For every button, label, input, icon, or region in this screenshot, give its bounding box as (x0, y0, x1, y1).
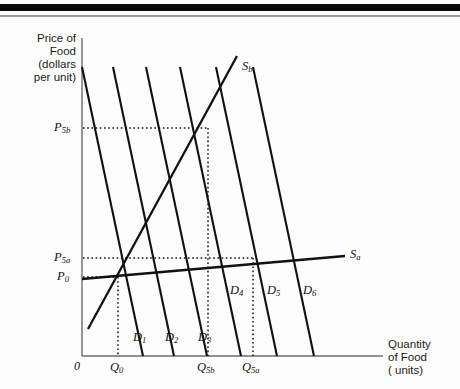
curve-D1 (82, 67, 143, 356)
price-tick-P5a-base: P (54, 250, 62, 264)
quantity-tick-Q5a: Q5a (242, 360, 260, 376)
y-axis-title-line-2: Food (6, 45, 76, 58)
price-tick-P0-sub: 0 (65, 274, 69, 284)
curve-label-D2-base: D (165, 330, 174, 344)
x-axis-title-line-3: ( units) (388, 364, 458, 377)
price-tick-P5b-sub: 5b (62, 125, 71, 135)
y-axis-title-line-3: (dollars (6, 58, 76, 71)
curve-label-D1: D1 (133, 330, 146, 346)
price-tick-P0: P0 (57, 269, 69, 285)
curve-label-D1-base: D (133, 330, 142, 344)
x-axis-title: Quantity of Food ( units) (388, 338, 458, 377)
curve-label-D6-sub: 6 (312, 288, 316, 298)
curve-label-Sa: Sa (350, 247, 361, 263)
curve-D3 (146, 67, 207, 356)
price-tick-P5a-sub: 5a (62, 255, 71, 265)
curve-label-D4: D4 (230, 283, 243, 299)
x-axis-title-line-2: of Food (388, 351, 458, 364)
curve-label-D2-sub: 2 (174, 335, 178, 345)
curve-Sb (88, 56, 237, 329)
curve-label-D3: D3 (198, 330, 211, 346)
y-axis-title-line-1: Price of (6, 32, 76, 45)
curve-label-D6: D6 (303, 283, 316, 299)
curve-label-Sb-sub: b (248, 64, 252, 74)
y-axis-title: Price of Food (dollars per unit) (6, 32, 76, 84)
curve-label-Sa-sub: a (356, 252, 360, 262)
price-tick-P5b: P5b (54, 120, 70, 136)
quantity-tick-Q0: Q0 (110, 360, 123, 376)
curve-label-D4-sub: 4 (239, 288, 243, 298)
curve-label-D5-sub: 5 (276, 288, 280, 298)
quantity-tick-Q5b: Q5b (197, 360, 215, 376)
price-tick-P5a: P5a (54, 250, 70, 266)
origin-label: 0 (74, 360, 80, 373)
axis-lines (82, 38, 383, 356)
curve-D6 (253, 67, 314, 356)
curve-label-D5: D5 (267, 283, 280, 299)
quantity-tick-Q5b-base: Q (197, 360, 206, 374)
curve-label-D3-base: D (198, 330, 207, 344)
curve-label-Sb: Sb (242, 59, 253, 75)
quantity-tick-Q5b-sub: 5b (206, 365, 215, 375)
quantity-tick-Q5a-sub: 5a (251, 365, 260, 375)
demand-curves (82, 67, 314, 356)
curve-label-D4-base: D (230, 283, 239, 297)
x-axis-title-line-1: Quantity (388, 338, 458, 351)
quantity-tick-Q5a-base: Q (242, 360, 251, 374)
curve-D5 (216, 67, 277, 356)
curve-label-D5-base: D (267, 283, 276, 297)
figure-canvas: Price of Food (dollars per unit) Quantit… (0, 0, 460, 389)
quantity-tick-Q0-sub: 0 (119, 365, 123, 375)
curve-label-D6-base: D (303, 283, 312, 297)
curve-D2 (113, 67, 174, 356)
price-tick-P0-base: P (57, 269, 65, 283)
y-axis-title-line-4: per unit) (6, 71, 76, 84)
curve-label-D3-sub: 3 (207, 335, 211, 345)
price-tick-P5b-base: P (54, 120, 62, 134)
quantity-tick-Q0-base: Q (110, 360, 119, 374)
guide-lines (83, 128, 253, 356)
curve-label-D1-sub: 1 (142, 335, 146, 345)
curve-D4 (180, 67, 241, 356)
curve-label-D2: D2 (165, 330, 178, 346)
